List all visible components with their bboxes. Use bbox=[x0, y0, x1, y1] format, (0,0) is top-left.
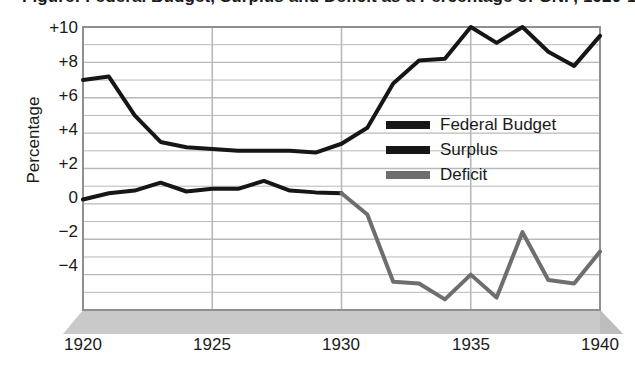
legend-label: Deficit bbox=[440, 165, 487, 185]
legend-item-surplus: Surplus bbox=[386, 137, 606, 162]
x-tick-label: 1940 bbox=[565, 336, 635, 353]
x-tick-label: 1935 bbox=[436, 336, 506, 353]
x-tick-label: 1920 bbox=[48, 336, 118, 353]
legend-item-deficit: Deficit bbox=[386, 162, 606, 187]
legend-swatch-icon bbox=[386, 171, 430, 179]
x-tick-label: 1925 bbox=[177, 336, 247, 353]
legend-item-federal-budget: Federal Budget bbox=[386, 112, 606, 137]
chart-floor bbox=[63, 310, 623, 334]
chart-legend: Federal Budget Surplus Deficit bbox=[386, 112, 606, 187]
legend-swatch-icon bbox=[386, 146, 430, 154]
legend-label: Surplus bbox=[440, 140, 498, 160]
x-tick-label: 1930 bbox=[306, 336, 376, 353]
legend-label: Federal Budget bbox=[440, 115, 556, 135]
chart-floor-right bbox=[600, 310, 623, 334]
legend-swatch-icon bbox=[386, 121, 430, 129]
chart-figure: Figure: Federal Budget, Surplus and Defi… bbox=[0, 0, 635, 367]
